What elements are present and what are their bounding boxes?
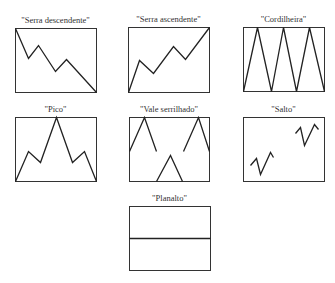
pattern-panel (129, 28, 210, 93)
pattern-panel (244, 118, 325, 182)
panel-frame (130, 118, 210, 182)
pattern-line (296, 125, 319, 146)
pattern-line (16, 29, 97, 93)
pattern-panel (130, 118, 210, 182)
pattern-line (16, 118, 97, 182)
diagram-canvas (0, 0, 335, 283)
pattern-panel (244, 28, 325, 92)
panel-frame (129, 28, 210, 93)
pattern-line (157, 156, 183, 182)
pattern-line (184, 118, 210, 152)
pattern-line (130, 118, 157, 152)
pattern-panel (130, 207, 211, 271)
pattern-line (244, 28, 325, 92)
pattern-line (129, 28, 210, 93)
pattern-panel (16, 118, 97, 182)
pattern-panel (16, 29, 97, 93)
panel-frame (16, 29, 97, 93)
panel-frame (244, 118, 325, 182)
pattern-line (251, 153, 274, 175)
panel-frame (16, 118, 97, 182)
